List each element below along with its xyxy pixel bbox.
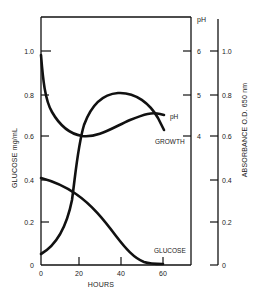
glucose-curve [41,178,163,264]
tick-label-ph-4: 4 [197,133,201,140]
tick-label-y-0-2: 0.2 [24,219,34,226]
tick-label-abs-1-0: 1.0 [222,48,232,55]
tick-label-abs-0-2: 0.2 [222,219,232,226]
growth-curve-label: GROWTH [155,138,185,145]
tick-label-abs-0: 0 [222,262,226,269]
absorbance-ticks [210,51,218,265]
tick-label-y-1-0: 1.0 [24,48,34,55]
y-axis-title-absorbance: ABSORBANCE O.D. 650 nm [241,83,248,178]
tick-label-abs-0-8: 0.8 [222,92,232,99]
tick-label-abs-0-6: 0.6 [222,133,232,140]
glucose-curve-label: GLUCOSE [154,247,186,254]
tick-label-x-20: 20 [75,270,83,277]
ph-tick-labels: 6 5 4 [197,48,201,140]
ph-curve [41,55,164,136]
x-axis-title: HOURS [88,281,114,288]
x-tick-labels: 0 20 40 60 [39,270,167,277]
tick-label-y-0-4: 0.4 [24,177,34,184]
ph-ticks [183,51,191,136]
tick-label-x-40: 40 [117,270,125,277]
tick-label-x-0: 0 [39,270,43,277]
tick-label-x-60: 60 [159,270,167,277]
growth-curve [41,93,164,254]
tick-label-ph-5: 5 [197,92,201,99]
left-y-tick-labels: 0 0.2 0.4 0.6 0.8 1.0 [24,48,34,269]
ph-curve-label: pH [170,113,179,121]
curves [41,55,164,264]
ph-axis-title: pH [197,16,206,24]
absorbance-tick-labels: 1.0 0.8 0.6 0.4 0.2 0 [222,48,232,269]
chart-canvas: 0 0.2 0.4 0.6 0.8 1.0 GLUCOSE mg/mL 0 20… [0,0,258,296]
tick-label-y-0: 0 [30,262,34,269]
tick-label-ph-6: 6 [197,48,201,55]
tick-label-y-0-6: 0.6 [24,133,34,140]
y-axis-title-glucose: GLUCOSE mg/mL [11,128,19,188]
tick-label-y-0-8: 0.8 [24,92,34,99]
tick-label-abs-0-4: 0.4 [222,177,232,184]
